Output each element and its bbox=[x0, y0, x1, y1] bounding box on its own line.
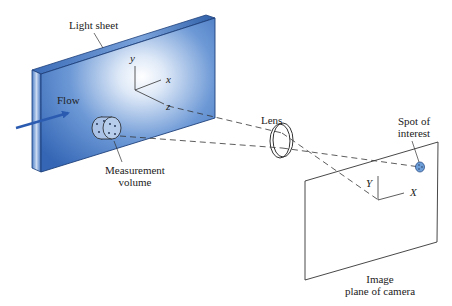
image-x-axis-label: X bbox=[410, 186, 417, 198]
image-plane-label-line2: plane of camera bbox=[330, 285, 430, 297]
measurement-volume-label-line1: Measurement bbox=[100, 164, 170, 176]
image-axes bbox=[378, 176, 404, 200]
image-plane-label: Image plane of camera bbox=[330, 273, 430, 297]
ray-lens-to-spot bbox=[282, 148, 420, 167]
measurement-volume-label-line2: volume bbox=[100, 176, 170, 188]
flow-label: Flow bbox=[57, 94, 80, 106]
light-sheet-label: Light sheet bbox=[69, 19, 118, 31]
y-axis-label: y bbox=[130, 52, 135, 64]
spot-of-interest bbox=[416, 162, 425, 172]
lens-label: Lens bbox=[261, 114, 282, 126]
diagram-canvas bbox=[0, 0, 452, 306]
z-axis-label: z bbox=[166, 100, 170, 112]
light-sheet-leader bbox=[94, 33, 103, 48]
spot-label-line1: Spot of bbox=[389, 115, 439, 127]
measurement-volume bbox=[92, 117, 121, 139]
ray-lens-to-origin bbox=[282, 133, 377, 199]
spot-label: Spot of interest bbox=[389, 115, 439, 139]
piv-diagram: Light sheet Flow y x z Measurement volum… bbox=[0, 0, 452, 306]
x-axis-label: x bbox=[166, 73, 171, 85]
image-x-axis-line bbox=[378, 193, 404, 200]
image-y-axis-label: Y bbox=[366, 177, 372, 189]
spot-label-line2: interest bbox=[389, 127, 439, 139]
image-plane-label-line1: Image bbox=[330, 273, 430, 285]
measurement-volume-label: Measurement volume bbox=[100, 164, 170, 188]
lens bbox=[270, 123, 293, 158]
ray-lower-to-lens bbox=[120, 136, 282, 148]
spot-leader bbox=[412, 141, 419, 162]
